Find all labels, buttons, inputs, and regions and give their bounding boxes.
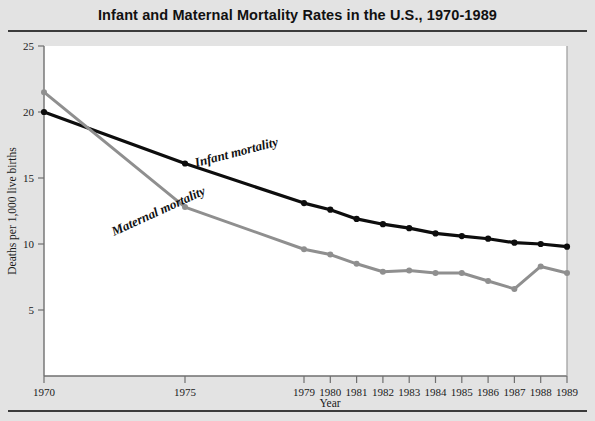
data-point: [459, 270, 465, 276]
data-point: [380, 221, 386, 227]
data-point: [327, 207, 333, 213]
data-point: [354, 261, 360, 267]
data-point: [564, 270, 570, 276]
y-axis-tick-label: 20: [23, 106, 35, 118]
data-point: [406, 225, 412, 231]
data-point: [41, 89, 47, 95]
data-point: [485, 236, 491, 242]
x-axis-tick-label: 1983: [398, 386, 421, 398]
x-axis-title: Year: [319, 397, 340, 409]
x-axis-tick-label: 1989: [556, 386, 579, 398]
y-axis-title: Deaths per 1,000 live births: [6, 147, 19, 275]
x-axis-ticks: 1970197519791980198119821983198419851986…: [33, 376, 579, 398]
x-axis-tick-label: 1979: [293, 386, 316, 398]
y-axis-tick-label: 10: [23, 238, 35, 250]
data-point: [182, 160, 188, 166]
data-point: [538, 241, 544, 247]
y-axis-tick-label: 15: [23, 172, 35, 184]
data-point: [432, 230, 438, 236]
chart-figure: Infant and Maternal Mortality Rates in t…: [0, 0, 595, 421]
data-point: [380, 269, 386, 275]
line-chart-plot: 510152025 197019751979198019811982198319…: [0, 0, 595, 421]
x-axis-tick-label: 1981: [346, 386, 368, 398]
data-point: [301, 246, 307, 252]
x-axis-tick-label: 1982: [372, 386, 394, 398]
data-point: [354, 216, 360, 222]
data-point: [433, 270, 439, 276]
data-point: [327, 252, 333, 258]
data-point: [459, 233, 465, 239]
x-axis-tick-label: 1986: [477, 386, 500, 398]
x-axis-tick-label: 1987: [503, 386, 526, 398]
data-point: [406, 267, 412, 273]
data-point: [485, 278, 491, 284]
data-point: [511, 286, 517, 292]
data-point: [564, 244, 570, 250]
y-axis-ticks: 510152025: [23, 40, 44, 316]
x-axis-tick-label: 1970: [33, 386, 56, 398]
data-point: [538, 263, 544, 269]
plot-area-background: [44, 46, 567, 376]
data-point: [41, 109, 47, 115]
y-axis-tick-label: 25: [23, 40, 35, 52]
x-axis-tick-label: 1985: [451, 386, 474, 398]
y-axis-tick-label: 5: [29, 304, 35, 316]
data-point: [301, 200, 307, 206]
x-axis-tick-label: 1988: [530, 386, 553, 398]
x-axis-tick-label: 1975: [174, 386, 197, 398]
x-axis-tick-label: 1984: [425, 386, 448, 398]
data-point: [511, 240, 517, 246]
